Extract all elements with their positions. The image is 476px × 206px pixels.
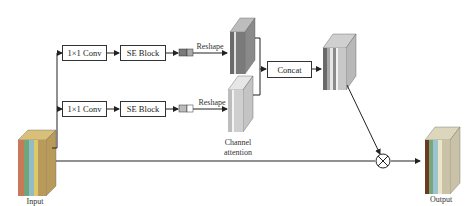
channel-attention-label-2: attention bbox=[216, 148, 260, 158]
reshape-vector-bottom-icon bbox=[179, 105, 193, 112]
multiply-icon bbox=[376, 154, 390, 168]
output-label: Output bbox=[424, 195, 458, 205]
se-block-top-box: SE Block bbox=[120, 45, 166, 61]
feature-map-top-icon bbox=[230, 18, 255, 74]
reshape-bottom-label: Reshape bbox=[196, 98, 228, 108]
channel-attention-label-1: Channel bbox=[216, 138, 260, 148]
conv-top-box: 1×1 Conv bbox=[62, 45, 107, 61]
concat-box: Concat bbox=[267, 61, 312, 78]
reshape-top-label: Reshape bbox=[194, 42, 226, 52]
se-block-bottom-box: SE Block bbox=[120, 101, 166, 117]
input-tensor-icon bbox=[18, 130, 56, 196]
concat-feature-map-icon bbox=[323, 34, 356, 90]
output-tensor-icon bbox=[425, 127, 460, 194]
feature-map-bottom-icon bbox=[228, 76, 253, 132]
reshape-vector-top-icon bbox=[179, 49, 193, 56]
input-label: Input bbox=[20, 197, 50, 206]
conv-bottom-box: 1×1 Conv bbox=[62, 101, 107, 117]
